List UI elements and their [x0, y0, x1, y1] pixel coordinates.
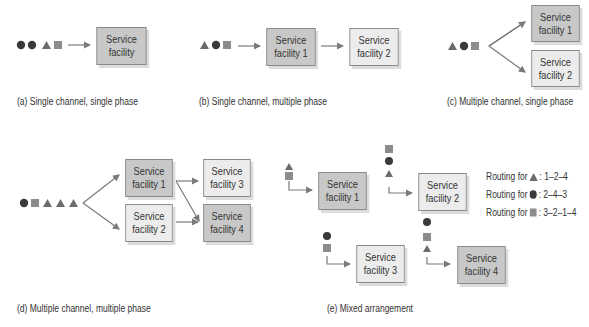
caption-d: (d) Multiple channel, multiple phase: [17, 303, 151, 314]
legend-row-square: Routing for : 3–2–1–4: [486, 207, 576, 218]
facility-label: Service: [359, 34, 390, 46]
legend-route: : 1–2–4: [539, 171, 567, 182]
facility-label: facility 3: [364, 264, 397, 276]
queue-d: [20, 199, 78, 207]
legend-prefix: Routing for: [486, 171, 528, 182]
facility-label: Service: [134, 210, 165, 222]
queue-c: [448, 42, 479, 50]
service-facility-b2: Servicefacility 2: [349, 28, 398, 66]
legend-route: : 2–4–3: [539, 189, 567, 200]
facility-label: facility 2: [357, 47, 390, 59]
facility-label: Service: [212, 210, 243, 222]
service-facility-e1: Servicefacility 1: [318, 172, 366, 210]
facility-label: facility 2: [539, 69, 572, 81]
service-facility-e4: Servicefacility 4: [457, 246, 505, 284]
facility-label: Service: [540, 56, 571, 68]
queue-b: [200, 41, 231, 49]
facility-label: facility 1: [132, 178, 165, 190]
facility-label: Service: [106, 33, 137, 45]
facility-label: facility 1: [326, 191, 359, 203]
legend-row-circle: Routing for : 2–4–3: [486, 189, 567, 200]
queue-e1: [285, 163, 293, 180]
service-facility-c1: Servicefacility 1: [531, 5, 579, 42]
facility-label: facility 4: [465, 265, 498, 277]
legend-row-triangle: Routing for : 1–2–4: [486, 171, 568, 182]
triangle-icon: [529, 172, 538, 181]
service-facility-b1: Servicefacility 1: [266, 28, 315, 66]
facility-label: facility 4: [210, 223, 243, 235]
caption-c: (c) Multiple channel, single phase: [447, 96, 573, 107]
queue-e2: [385, 145, 393, 177]
service-facility-d4: Servicefacility 4: [203, 204, 251, 242]
facility-label: Service: [276, 34, 307, 46]
queue-e4: [423, 218, 431, 252]
facility-label: facility 1: [274, 47, 307, 59]
legend-route: : 3–2–1–4: [539, 207, 577, 218]
facility-label: Service: [327, 178, 358, 190]
service-facility-d1: Servicefacility 1: [125, 159, 173, 197]
caption-a: (a) Single channel, single phase: [17, 96, 138, 107]
facility-label: Service: [134, 165, 165, 177]
facility-label: Service: [212, 165, 243, 177]
service-facility-a: Servicefacility: [96, 27, 146, 65]
caption-b: (b) Single channel, multiple phase: [199, 96, 327, 107]
service-facility-c2: Servicefacility 2: [531, 50, 579, 87]
facility-label: facility 3: [210, 178, 243, 190]
facility-label: facility: [109, 46, 135, 58]
legend-prefix: Routing for: [486, 189, 528, 200]
service-facility-d3: Servicefacility 3: [203, 159, 251, 197]
service-facility-e3: Servicefacility 3: [356, 245, 404, 283]
facility-label: Service: [540, 11, 571, 23]
queue-a: [17, 41, 62, 49]
circle-icon: [529, 190, 537, 199]
facility-label: Service: [427, 179, 458, 191]
legend-prefix: Routing for: [486, 207, 528, 218]
facility-label: Service: [466, 252, 497, 264]
facility-label: facility 2: [426, 192, 459, 204]
service-facility-d2: Servicefacility 2: [125, 204, 173, 242]
facility-label: facility 1: [539, 24, 572, 36]
queue-e3: [323, 232, 331, 252]
caption-e: (e) Mixed arrangement: [327, 303, 413, 314]
facility-label: facility 2: [132, 223, 165, 235]
facility-label: Service: [365, 251, 396, 263]
square-icon: [529, 208, 537, 217]
service-facility-e2: Servicefacility 2: [418, 173, 466, 211]
